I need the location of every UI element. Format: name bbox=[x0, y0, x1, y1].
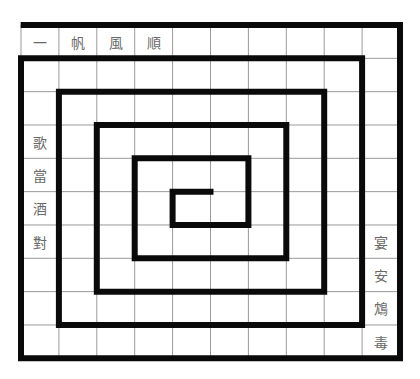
grid-cell-empty bbox=[324, 325, 362, 358]
grid-cell-empty bbox=[173, 25, 211, 58]
grid-cell-empty bbox=[286, 92, 324, 125]
grid-cell-empty bbox=[173, 192, 211, 225]
grid-cell-empty bbox=[59, 92, 97, 125]
grid-cell-empty bbox=[324, 92, 362, 125]
grid-cell-empty bbox=[324, 58, 362, 91]
grid-cell-empty bbox=[59, 58, 97, 91]
grid-cell-empty bbox=[324, 125, 362, 158]
grid-cell-empty bbox=[59, 325, 97, 358]
grid-cell-empty bbox=[21, 258, 59, 291]
grid-cell-empty bbox=[173, 125, 211, 158]
grid-cell-empty bbox=[248, 292, 286, 325]
grid-cell-empty bbox=[173, 58, 211, 91]
grid-cell-empty bbox=[97, 225, 135, 258]
grid-cell-character: 當 bbox=[21, 158, 59, 191]
grid-cell-empty bbox=[248, 25, 286, 58]
grid-cell-character: 鴆 bbox=[362, 292, 400, 325]
grid-cell-empty bbox=[135, 225, 173, 258]
grid-cell-empty bbox=[211, 258, 249, 291]
grid-cell-empty bbox=[362, 92, 400, 125]
grid-cell-empty bbox=[59, 158, 97, 191]
grid-cell-empty bbox=[135, 125, 173, 158]
grid-cell-empty bbox=[21, 58, 59, 91]
grid-cell-empty bbox=[286, 225, 324, 258]
grid-cell-character: 順 bbox=[135, 25, 173, 58]
grid-cell-empty bbox=[248, 325, 286, 358]
grid-cell-empty bbox=[286, 292, 324, 325]
grid-cell-character: 帆 bbox=[59, 25, 97, 58]
grid-cell-empty bbox=[211, 292, 249, 325]
grid-cell-empty bbox=[362, 158, 400, 191]
grid-cell-empty bbox=[173, 92, 211, 125]
grid-cell-character: 宴 bbox=[362, 225, 400, 258]
grid-cell-empty bbox=[286, 125, 324, 158]
grid-cell-empty bbox=[97, 292, 135, 325]
grid-cell-empty bbox=[21, 92, 59, 125]
grid-cell-empty bbox=[135, 325, 173, 358]
grid-cell-empty bbox=[59, 292, 97, 325]
grid-cell-empty bbox=[135, 92, 173, 125]
grid-cell-empty bbox=[21, 325, 59, 358]
grid-cell-empty bbox=[135, 192, 173, 225]
grid-cell-empty bbox=[211, 225, 249, 258]
grid-cell-empty bbox=[173, 292, 211, 325]
grid-cell-empty bbox=[211, 58, 249, 91]
grid-cell-empty bbox=[97, 325, 135, 358]
grid-cell-empty bbox=[211, 92, 249, 125]
grid-cell-empty bbox=[286, 58, 324, 91]
grid-cell-empty bbox=[286, 192, 324, 225]
grid-cell-empty bbox=[97, 192, 135, 225]
grid-cell-empty bbox=[286, 25, 324, 58]
grid-cell-empty bbox=[173, 158, 211, 191]
grid-cell-empty bbox=[248, 158, 286, 191]
grid-cell-empty bbox=[248, 92, 286, 125]
grid-cell-character: 對 bbox=[21, 225, 59, 258]
grid-cell-empty bbox=[59, 258, 97, 291]
grid-cell-empty bbox=[248, 58, 286, 91]
grid-cell-empty bbox=[173, 325, 211, 358]
grid-cell-empty bbox=[362, 25, 400, 58]
grid-cell-character: 一 bbox=[21, 25, 59, 58]
grid-cell-empty bbox=[248, 192, 286, 225]
grid-cell-empty bbox=[97, 125, 135, 158]
grid-cell-empty bbox=[59, 225, 97, 258]
grid-cell-empty bbox=[324, 258, 362, 291]
grid-cell-empty bbox=[97, 92, 135, 125]
grid-cell-empty bbox=[173, 258, 211, 291]
grid-cell-empty bbox=[59, 125, 97, 158]
grid-cell-empty bbox=[324, 192, 362, 225]
grid-cell-empty bbox=[362, 58, 400, 91]
grid-cell-empty bbox=[362, 192, 400, 225]
grid-cell-empty bbox=[286, 158, 324, 191]
grid-cell-character: 歌 bbox=[21, 125, 59, 158]
grid-cell-character: 風 bbox=[97, 25, 135, 58]
grid-cell-empty bbox=[324, 225, 362, 258]
grid-cell-empty bbox=[211, 325, 249, 358]
grid-cell-empty bbox=[135, 258, 173, 291]
grid-cell-empty bbox=[324, 158, 362, 191]
grid-cell-empty bbox=[21, 292, 59, 325]
grid-cell-empty bbox=[362, 125, 400, 158]
grid-cell-empty bbox=[211, 25, 249, 58]
grid-cell-empty bbox=[211, 125, 249, 158]
grid-cell-empty bbox=[211, 192, 249, 225]
grid-cell-empty bbox=[286, 258, 324, 291]
grid-cell-empty bbox=[97, 58, 135, 91]
grid-cell-character: 安 bbox=[362, 258, 400, 291]
grid-cell-empty bbox=[248, 258, 286, 291]
grid-cell-empty bbox=[324, 25, 362, 58]
grid-cell-empty bbox=[135, 158, 173, 191]
spiral-word-puzzle: 一帆風順歌當酒對宴安鴆毒 bbox=[0, 0, 420, 379]
grid-cell-empty bbox=[97, 158, 135, 191]
grid-cell-empty bbox=[286, 325, 324, 358]
grid-cell-empty bbox=[97, 258, 135, 291]
grid-cell-empty bbox=[248, 125, 286, 158]
grid-cell-character: 酒 bbox=[21, 192, 59, 225]
grid-cell-empty bbox=[211, 158, 249, 191]
grid-cell-empty bbox=[135, 58, 173, 91]
grid-cell-empty bbox=[59, 192, 97, 225]
grid-cell-character: 毒 bbox=[362, 325, 400, 358]
grid-cell-empty bbox=[173, 225, 211, 258]
grid-cell-empty bbox=[248, 225, 286, 258]
grid-cell-empty bbox=[135, 292, 173, 325]
